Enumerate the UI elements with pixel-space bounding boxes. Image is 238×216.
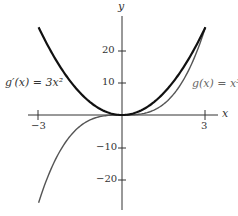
y-tick-label-neg10: −10: [96, 141, 117, 152]
y-tick-label-neg20: −20: [96, 173, 117, 184]
legend-func-label: g(x) = x³: [192, 77, 238, 90]
y-tick-label-20: 20: [102, 44, 115, 55]
y-tick-label-10: 10: [102, 76, 115, 87]
x-tick-label-3: 3: [201, 120, 207, 131]
plot-area: [0, 0, 238, 216]
x-axis-label: x: [222, 107, 228, 120]
y-axis-label: y: [118, 0, 124, 13]
legend-deriv-label: g′(x) = 3x²: [5, 76, 63, 89]
x-tick-label-neg3: −3: [31, 120, 46, 131]
